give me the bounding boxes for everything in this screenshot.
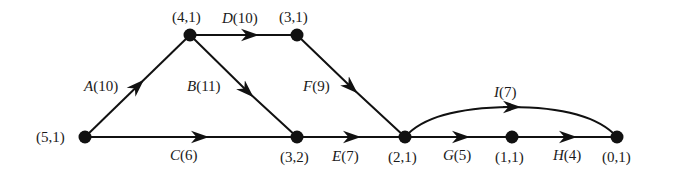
edge-label-g: G(5) [443, 147, 471, 164]
node-3-1 [291, 29, 304, 42]
node-label-1-1: (1,1) [495, 149, 524, 166]
node-label-2-1: (2,1) [388, 149, 417, 166]
node-0-1 [611, 131, 624, 144]
edge-label-b: B(11) [187, 78, 221, 95]
edge-label-f: F(9) [302, 78, 330, 95]
edge-label-c: C(6) [170, 147, 198, 164]
edge-label-a: A(10) [83, 78, 118, 95]
edge-label-d: D(10) [221, 10, 258, 27]
node-label-3-2: (3,2) [280, 149, 309, 166]
node-label-5-1: (5,1) [36, 129, 65, 146]
node-1-1 [506, 131, 519, 144]
node-3-2 [291, 131, 304, 144]
node-label-3-1: (3,1) [279, 9, 308, 26]
node-4-1 [184, 29, 197, 42]
node-label-4-1: (4,1) [172, 9, 201, 26]
edge-label-e: E(7) [331, 148, 359, 165]
node-2-1 [399, 131, 412, 144]
node-label-0-1: (0,1) [602, 149, 631, 166]
edge-label-i: I(7) [493, 84, 517, 101]
node-5-1 [79, 131, 92, 144]
network-diagram: (5,1) (4,1) (3,1) (3,2) (2,1) (1,1) (0,1… [0, 0, 673, 183]
edge-label-h: H(4) [552, 147, 581, 164]
